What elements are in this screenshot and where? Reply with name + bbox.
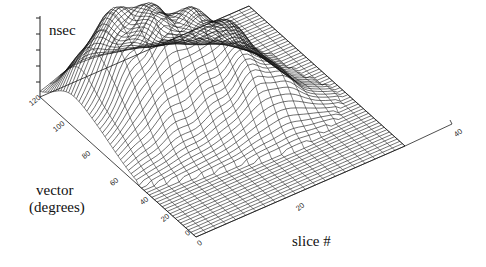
z-axis-title: nsec [49,22,76,39]
z-axis [36,16,40,97]
x-axis-title: slice # [292,233,331,250]
surface-mesh [40,3,405,238]
y-axis-title-line2: (degrees) [29,199,85,216]
slice-axis-extension [405,120,452,146]
y-axis-title-line1: vector [36,182,73,199]
surface-plot [0,0,486,267]
